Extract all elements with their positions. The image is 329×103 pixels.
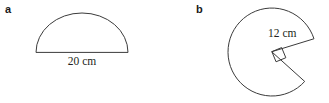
pacman-circle-outline xyxy=(228,8,314,96)
figure-board: a 20 cm b 12 cm xyxy=(0,0,329,103)
sector-radius-label: 12 cm xyxy=(268,27,314,39)
sector-circle-figure xyxy=(0,0,329,103)
